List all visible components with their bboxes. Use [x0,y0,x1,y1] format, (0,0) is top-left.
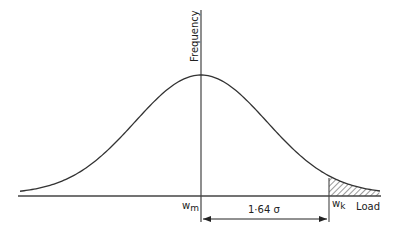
wk-label: wk [332,198,346,211]
frequency-label: Frequency [189,10,200,62]
load-label: Load [356,201,380,212]
normal-distribution-diagram: Frequency wm wk Load 1·64 σ [0,0,397,234]
distance-label: 1·64 σ [248,204,280,215]
bell-curve [20,75,380,191]
wm-label: wm [182,200,199,213]
